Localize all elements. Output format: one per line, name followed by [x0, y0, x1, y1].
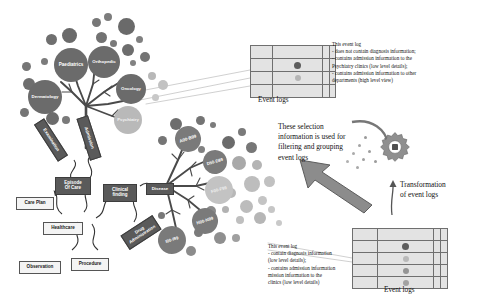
cluster-blob [158, 212, 165, 219]
figure-canvas: Paediatrics Orthopedic Dermatology Oncol… [0, 0, 478, 302]
cluster-blob [244, 176, 260, 192]
box-drug-administration[interactable]: Drug Administration [120, 215, 161, 250]
box-episode-of-care[interactable]: Episode Of Care [55, 177, 91, 195]
dept-node-dermatology[interactable]: Dermatology [28, 80, 62, 114]
sparkle-dot [352, 152, 355, 155]
cluster-blob [238, 128, 246, 136]
dept-node-paediatrics[interactable]: Paediatrics [54, 48, 88, 82]
dept-label: Paediatrics [59, 63, 84, 68]
log-mark-dark [294, 62, 301, 69]
sparkle-dot [368, 150, 371, 153]
dept-label: Oncology [121, 87, 141, 91]
cluster-blob [246, 142, 257, 153]
box-healthcare[interactable]: Healthcare [43, 222, 83, 235]
icd-label: N00-N99 [196, 216, 214, 225]
cluster-blob [118, 18, 135, 35]
box-label: Healthcare [51, 226, 75, 231]
sparkle-dot [346, 160, 349, 163]
box-disease[interactable]: Disease [146, 183, 174, 195]
icd-node-f00-f99[interactable]: F00-F99 [202, 173, 237, 208]
cluster-blob [41, 58, 48, 65]
icd-label: A00-B99 [179, 134, 197, 144]
cluster-blob [46, 34, 57, 45]
sparkle-dot [364, 136, 367, 139]
icd-label: F00-F99 [211, 186, 228, 195]
cluster-blob [22, 62, 31, 71]
cluster-blob [268, 206, 275, 213]
box-admission[interactable]: Admission [76, 115, 101, 161]
cluster-blob [196, 116, 205, 125]
cluster-blob [214, 232, 226, 244]
cluster-blob [122, 44, 134, 56]
log-mark-mid [403, 280, 409, 286]
cluster-blob [258, 196, 267, 205]
table-row [251, 46, 336, 59]
cluster-blob [62, 116, 70, 124]
cluster-blob [140, 52, 150, 62]
box-label: Episode Of Care [64, 181, 82, 190]
cluster-blob [130, 60, 136, 66]
cluster-blob [232, 156, 246, 170]
box-label: Procedure [79, 262, 102, 267]
cluster-blob [136, 36, 143, 43]
event-log-top-grid[interactable] [250, 45, 336, 98]
dept-node-psychiatry[interactable]: Psychiatry [114, 106, 142, 134]
box-label: Clinical finding [112, 188, 128, 197]
box-care-plan[interactable]: Care Plan [16, 197, 54, 210]
cluster-blob [236, 216, 244, 224]
gear-icon [378, 130, 412, 164]
cluster-blob [110, 40, 117, 47]
dept-node-orthopedic[interactable]: Orthopedic [88, 46, 120, 78]
dept-label: Psychiatry [117, 118, 139, 122]
cluster-blob [158, 80, 168, 90]
annotation-top-right: This event log - does not contain diagno… [332, 41, 476, 84]
cluster-blob [46, 112, 59, 125]
dept-node-oncology[interactable]: Oncology [116, 74, 146, 104]
cluster-blob [20, 108, 29, 117]
icd-node-d50-d89[interactable]: D50-D89 [200, 147, 230, 177]
cluster-blob [276, 220, 282, 226]
box-label: Care Plan [24, 201, 45, 206]
box-label: Disease [152, 187, 169, 192]
log-mark-light [295, 75, 301, 81]
box-label: Admission [83, 127, 94, 150]
box-label: Examination [42, 128, 60, 152]
dept-label: Dermatology [32, 95, 59, 99]
icd-label: I00-I99 [165, 236, 179, 244]
cluster-blob [92, 18, 101, 27]
cluster-blob [104, 13, 112, 21]
log-mark-light [403, 256, 409, 262]
cluster-blob [240, 200, 253, 213]
cluster-blob [254, 212, 266, 224]
sparkle-dot [356, 166, 359, 169]
cluster-blob [186, 246, 196, 256]
cluster-blob [264, 176, 275, 187]
cluster-blob [198, 146, 205, 153]
box-procedure[interactable]: Procedure [71, 258, 109, 271]
cluster-blob [148, 72, 156, 80]
cluster-blob [222, 136, 235, 149]
table-row [251, 59, 336, 72]
cluster-blob [252, 160, 262, 170]
box-label: Drug Administration [126, 220, 156, 244]
sparkle-dot [362, 158, 365, 161]
log-mark-dark [402, 243, 409, 250]
annotation-center-selection: These selection information is used for … [278, 122, 378, 163]
cluster-blob [158, 136, 167, 145]
table-row [251, 72, 336, 85]
cluster-blob [210, 122, 216, 128]
table-row [353, 229, 448, 241]
annotation-transformation: Transformation of event logs [400, 180, 474, 200]
up-arrow-icon [390, 180, 397, 215]
event-logs-bottom-caption: Event logs [384, 286, 415, 294]
event-logs-top-caption: Event logs [258, 96, 289, 104]
icd-label: D50-D89 [206, 158, 223, 167]
cluster-blob [222, 206, 229, 213]
sparkle-dot [358, 144, 361, 147]
annotation-bottom-center: This event log - contain diagnosis infor… [268, 243, 380, 286]
cluster-blob [62, 28, 77, 43]
box-observation[interactable]: Observation [19, 261, 61, 274]
block-arrow-icon [300, 160, 372, 213]
sparkle-dot [374, 160, 377, 163]
box-clinical-finding[interactable]: Clinical finding [103, 184, 137, 202]
